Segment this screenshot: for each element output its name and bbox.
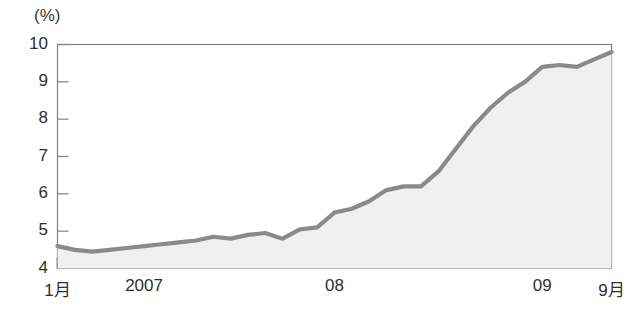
series-area-fill	[58, 52, 612, 269]
y-axis-ticks	[58, 45, 69, 232]
chart-container: (%) 45678910 1月200708099月	[0, 0, 637, 317]
chart-plot-area	[0, 0, 637, 317]
